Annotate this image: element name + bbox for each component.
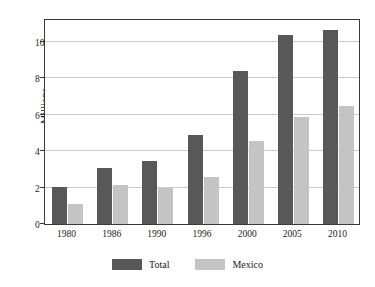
bar-total-1990 (142, 161, 157, 224)
bar-group (233, 20, 264, 224)
bar-mexico-2000 (249, 141, 264, 224)
x-axis-tick-label: 2005 (283, 229, 302, 239)
bar-total-1986 (97, 168, 112, 225)
bar-group (278, 20, 309, 224)
bar-mexico-2005 (294, 117, 309, 224)
bar-mexico-2010 (339, 106, 354, 224)
bar-mexico-1996 (204, 177, 219, 224)
bar-mexico-1986 (113, 185, 128, 224)
bar-group (52, 20, 83, 224)
bar-mexico-1990 (158, 188, 173, 224)
bar-total-2010 (323, 30, 338, 224)
legend-item-total[interactable]: Total (112, 259, 169, 270)
bars-layer (45, 20, 359, 224)
bar-group (188, 20, 219, 224)
legend-item-mexico[interactable]: Mexico (195, 259, 263, 270)
bar-group (97, 20, 128, 224)
bar-total-1980 (52, 187, 67, 224)
x-axis-tick-label: 1980 (57, 229, 76, 239)
legend-label: Total (149, 259, 169, 270)
bar-mexico-1980 (68, 204, 83, 224)
x-axis-tick-label: 2000 (238, 229, 257, 239)
x-axis-tick-label: 1986 (102, 229, 121, 239)
plot-area (44, 19, 360, 225)
legend-swatch-total (112, 259, 142, 270)
bar-total-2000 (233, 71, 248, 224)
legend-swatch-mexico (195, 259, 225, 270)
x-axis-tick-label: 1996 (193, 229, 212, 239)
bar-group (323, 20, 354, 224)
legend-label: Mexico (232, 259, 263, 270)
bar-group (142, 20, 173, 224)
bar-chart: Millions 0246810 19801986199019962000200… (0, 0, 375, 287)
x-axis-tick-label: 1990 (147, 229, 166, 239)
bar-total-2005 (278, 35, 293, 224)
x-axis-tick-label: 2010 (328, 229, 347, 239)
bar-total-1996 (188, 135, 203, 224)
chart-legend: TotalMexico (0, 259, 375, 270)
